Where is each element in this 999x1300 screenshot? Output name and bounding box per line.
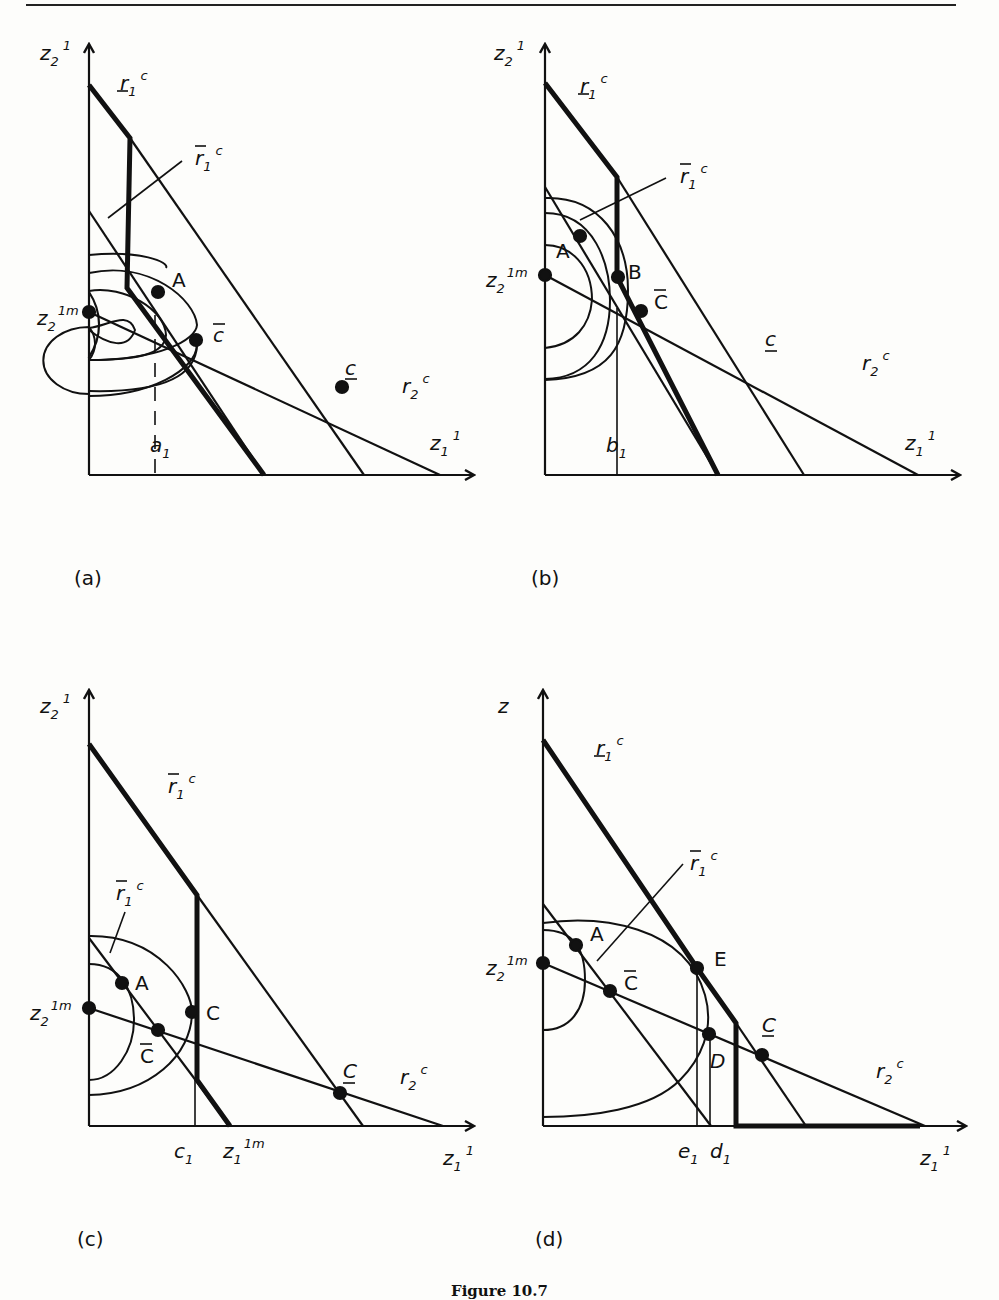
panel-b	[539, 44, 960, 475]
svg-text:c1: c1	[174, 1139, 193, 1167]
svg-text:C: C	[762, 1013, 776, 1037]
svg-text:A: A	[556, 239, 570, 263]
indifference-curve	[43, 327, 95, 394]
point-z2-1m	[539, 269, 551, 281]
svg-text:z11: z11	[919, 1143, 951, 1174]
point-C-bar	[635, 305, 647, 317]
svg-text:c: c	[345, 356, 356, 380]
point-A	[152, 286, 164, 298]
svg-text:A: A	[590, 922, 604, 946]
point-z2-1m	[83, 306, 95, 318]
point-D	[703, 1028, 715, 1040]
svg-text:z11m: z11m	[222, 1136, 265, 1167]
point-B	[612, 271, 624, 283]
svg-text:z21: z21	[493, 38, 525, 69]
indifference-curve	[89, 292, 99, 358]
point-C	[186, 1006, 198, 1018]
point-C-bar	[190, 334, 202, 346]
point-C-under	[334, 1087, 346, 1099]
svg-text:z: z	[497, 694, 509, 718]
svg-text:C: C	[343, 1059, 357, 1083]
panel-a	[43, 44, 474, 475]
point-C-under	[756, 1049, 768, 1061]
line-r1c-top	[89, 744, 230, 1126]
point-E	[691, 962, 703, 974]
svg-text:r1c: r1c	[116, 878, 144, 909]
svg-text:r1c: r1c	[690, 848, 718, 879]
svg-text:c: c	[213, 323, 224, 347]
svg-text:z21m: z21m	[29, 998, 72, 1029]
svg-text:r2c: r2c	[402, 371, 430, 402]
svg-text:b1: b1	[606, 433, 627, 461]
svg-text:r2c: r2c	[400, 1062, 428, 1093]
point-C-bar	[152, 1024, 164, 1036]
svg-text:r1c: r1c	[580, 71, 608, 102]
svg-text:E: E	[714, 947, 727, 971]
point-A	[574, 230, 586, 242]
svg-text:z21m: z21m	[485, 953, 528, 984]
svg-text:B: B	[628, 260, 642, 284]
svg-text:z21: z21	[39, 38, 71, 69]
point-z2-1m	[537, 957, 549, 969]
svg-text:r1c: r1c	[195, 143, 223, 174]
svg-text:d1: d1	[710, 1139, 731, 1167]
svg-text:C: C	[206, 1001, 220, 1025]
svg-text:(b): (b)	[531, 566, 559, 590]
point-C-under	[336, 381, 348, 393]
svg-text:(a): (a)	[74, 566, 102, 590]
svg-text:A: A	[135, 971, 149, 995]
svg-text:r1c: r1c	[596, 733, 624, 764]
line-r2c	[545, 275, 918, 475]
point-C-bar	[604, 985, 616, 997]
svg-text:r1c: r1c	[120, 68, 148, 99]
panel-b-labels: z21 r1c r1c A B z21m C c r2c b1 z11 (b)	[485, 38, 936, 590]
point-A	[570, 939, 582, 951]
svg-text:(d): (d)	[535, 1227, 563, 1251]
line-r1c-thin	[617, 177, 804, 475]
panel-d-labels: z r1c r1c A E z21m C D C r2c e1 d1 z11 (…	[485, 694, 951, 1251]
svg-text:z21m: z21m	[485, 265, 528, 296]
svg-text:e1: e1	[678, 1139, 699, 1167]
svg-text:C: C	[654, 290, 668, 314]
svg-text:r1c: r1c	[168, 771, 196, 802]
svg-text:r2c: r2c	[862, 348, 890, 379]
svg-text:z21: z21	[39, 691, 71, 722]
svg-text:r1c: r1c	[680, 161, 708, 192]
svg-text:A: A	[172, 268, 186, 292]
panel-a-labels: z21 r1c r1c A z21m c c r2c a1 z11 (a)	[36, 38, 461, 590]
point-A	[116, 977, 128, 989]
figure-caption: Figure 10.7	[0, 1282, 999, 1300]
svg-text:D: D	[710, 1049, 725, 1073]
svg-text:C: C	[140, 1044, 154, 1068]
svg-text:a1: a1	[150, 433, 171, 461]
svg-text:z11: z11	[429, 428, 461, 459]
svg-text:z11: z11	[442, 1143, 474, 1174]
svg-text:(c): (c)	[77, 1227, 104, 1251]
svg-text:z11: z11	[904, 428, 936, 459]
line-r2c	[89, 312, 440, 475]
svg-text:c: c	[765, 327, 776, 351]
line-r1c-thin	[736, 1023, 806, 1126]
svg-text:r2c: r2c	[876, 1056, 904, 1087]
svg-text:C: C	[624, 971, 638, 995]
point-z2-1m	[83, 1002, 95, 1014]
